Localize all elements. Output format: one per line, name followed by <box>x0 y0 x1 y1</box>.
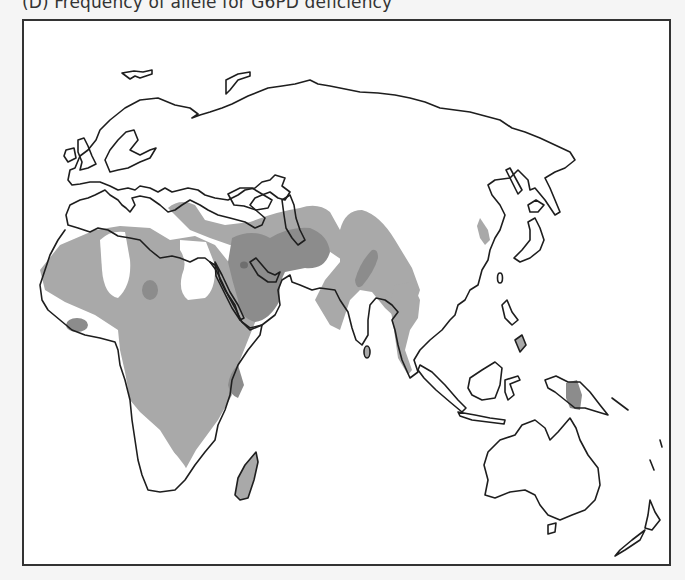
coast-black-sea <box>228 188 272 210</box>
coast-taiwan <box>498 273 503 283</box>
coast-new-zealand-south <box>615 530 645 556</box>
coast-japan <box>514 218 544 262</box>
zone-korea <box>477 218 490 245</box>
coast-hokkaido <box>528 200 544 212</box>
coast-tasmania <box>548 523 556 534</box>
coast-pacific-islands <box>612 398 662 470</box>
coast-australia <box>484 418 600 520</box>
zone-arabia-spot <box>240 262 248 269</box>
zone-new-guinea <box>566 380 582 410</box>
frequency-shading <box>40 202 582 500</box>
coast-novaya-zemlya <box>226 72 250 94</box>
coast-borneo <box>468 362 502 400</box>
coast-new-zealand-north <box>645 500 660 530</box>
zone-west-africa-spot <box>66 318 88 332</box>
world-map <box>22 19 671 566</box>
coast-java <box>458 412 505 424</box>
figure-title: (D) Frequency of allele for G6PD deficie… <box>22 0 392 12</box>
zone-sahel-spot <box>142 280 158 300</box>
coast-luzon <box>502 300 518 325</box>
coast-svalbard <box>122 70 152 79</box>
coast-sulawesi <box>505 376 520 400</box>
coast-sumatra <box>418 365 466 412</box>
coast-ireland <box>64 148 76 162</box>
map-frame <box>22 19 671 566</box>
coast-scandinavia <box>105 130 156 172</box>
